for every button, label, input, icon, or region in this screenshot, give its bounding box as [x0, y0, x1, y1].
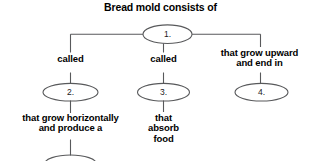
node-ellipse-5-partial — [45, 155, 97, 161]
node-label-2: 2. — [43, 88, 98, 97]
node-label-4: 4. — [235, 88, 288, 97]
edge-label-absorb-food: that absorb food — [133, 113, 194, 144]
edge-label-grow-horizontally: that grow horizontally and produce a — [0, 113, 141, 134]
node-label-3: 3. — [137, 88, 190, 97]
edge-label-called-middle: called — [128, 54, 199, 64]
edge-label-grow-upward: that grow upward and end in — [198, 48, 321, 69]
diagram-title: Bread mold consists of — [0, 2, 321, 13]
edge-label-called-left: called — [35, 54, 106, 64]
node-label-1: 1. — [143, 30, 192, 39]
concept-map-diagram: Bread mold consists of 1. 2. 3. 4. calle… — [0, 0, 321, 161]
